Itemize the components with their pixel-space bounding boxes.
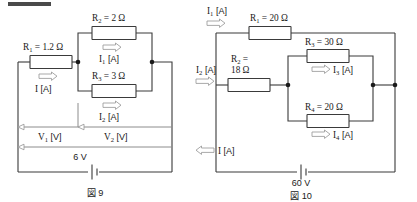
- fig10-source-voltage-label: 60 V: [292, 178, 311, 188]
- fig9-right-rail: [152, 62, 172, 172]
- fig9-dim-arrow-total: [18, 144, 24, 150]
- fig10-r2-label-line2: 18 Ω: [231, 65, 250, 75]
- fig9-v1-label: V1 [V]: [38, 132, 62, 143]
- fig10-current-i2-arrow: [196, 77, 214, 85]
- figure9-group: R1 = 1.2 Ω I [A] R2 = 2 Ω I1 [A] R3 = 3 …: [18, 13, 172, 198]
- circuit-diagrams: R1 = 1.2 Ω I [A] R2 = 2 Ω I1 [A] R3 = 3 …: [0, 0, 417, 202]
- fig9-v2-label: V2 [V]: [104, 132, 128, 143]
- fig10-node-e: [393, 83, 398, 88]
- fig9-caption: 図 9: [87, 188, 104, 198]
- fig10-current-i1-arrow: [207, 19, 225, 27]
- fig9-current-i-arrow: [39, 72, 57, 80]
- fig10-resistor-r4: [307, 115, 349, 128]
- fig9-r1-label: R1 = 1.2 Ω: [23, 42, 63, 53]
- fig9-dim-arrow-v1: [18, 124, 24, 130]
- fig9-current-i2-label: I2 [A]: [99, 112, 119, 123]
- fig10-resistor-r3: [307, 50, 349, 63]
- fig9-wire-r3-to-nodeB: [136, 62, 152, 91]
- fig10-r4-label: R4 = 20 Ω: [305, 102, 343, 113]
- fig10-r1-label: R1 = 20 Ω: [250, 13, 288, 24]
- fig10-r2-label: R2 =: [231, 54, 248, 65]
- fig10-current-i-arrow: [196, 146, 214, 154]
- figure-root: R1 = 1.2 Ω I [A] R2 = 2 Ω I1 [A] R3 = 3 …: [0, 0, 417, 202]
- fig10-current-i4-label: I4 [A]: [333, 130, 353, 141]
- fig9-node-a: [76, 60, 81, 65]
- fig10-current-i3-label: I3 [A]: [333, 65, 353, 76]
- fig10-node-c: [286, 83, 291, 88]
- fig10-node-d: [371, 83, 376, 88]
- fig10-current-i4-arrow: [312, 130, 330, 138]
- fig9-node-b: [150, 60, 155, 65]
- fig9-current-i1-label: I1 [A]: [99, 54, 119, 65]
- fig10-wire-r4-to-nodeD: [349, 85, 373, 121]
- fig10-resistor-r2: [228, 79, 270, 92]
- fig9-current-i-label: I [A]: [35, 84, 52, 94]
- figure10-group: I1 [A] R1 = 20 Ω I2 [A] R2 = 18 Ω R3 = 3…: [196, 6, 397, 201]
- fig9-wire-r2-to-nodeB: [136, 33, 152, 62]
- fig9-resistor-r3: [92, 85, 136, 98]
- fig9-r3-label: R3 = 3 Ω: [92, 71, 125, 82]
- fig10-resistor-r1: [249, 27, 291, 40]
- fig9-r2-label: R2 = 2 Ω: [92, 13, 125, 24]
- fig10-r3-label: R3 = 30 Ω: [305, 37, 343, 48]
- fig9-source-voltage-label: 6 V: [73, 152, 87, 162]
- fig9-resistor-r1: [30, 56, 72, 69]
- fig9-current-i2-arrow: [103, 101, 121, 109]
- fig10-current-i2-label: I2 [A]: [196, 65, 216, 76]
- fig10-current-i-label: I [A]: [218, 146, 235, 156]
- fig10-current-i1-label: I1 [A]: [207, 6, 227, 17]
- fig9-resistor-r2: [92, 27, 136, 40]
- fig9-current-i1-arrow: [103, 43, 121, 51]
- fig9-wire-nodeA-to-r2: [78, 33, 92, 62]
- fig9-wire-nodeA-to-r3: [78, 62, 92, 91]
- fig10-caption: 図 10: [290, 191, 312, 201]
- fig9-dim-arrow-v2: [78, 124, 84, 130]
- fig10-wire-nodeC-to-r3: [288, 56, 307, 85]
- fig10-current-i3-arrow: [312, 65, 330, 73]
